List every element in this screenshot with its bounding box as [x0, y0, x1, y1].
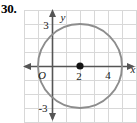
y-tick-label-neg3: -3 — [38, 102, 48, 114]
x-axis-label: x — [130, 63, 136, 75]
center-point-marker — [76, 62, 83, 69]
x-tick-label-4: 4 — [105, 69, 111, 81]
coordinate-plane: O 3 -3 2 4 y x — [0, 0, 137, 123]
y-axis-label: y — [60, 11, 66, 23]
figure-container: 30. — [0, 0, 137, 123]
x-tick-label-2: 2 — [76, 70, 82, 82]
y-axis-arrow-down — [49, 113, 56, 121]
y-tick-label-3: 3 — [43, 19, 49, 31]
origin-label: O — [38, 69, 46, 81]
